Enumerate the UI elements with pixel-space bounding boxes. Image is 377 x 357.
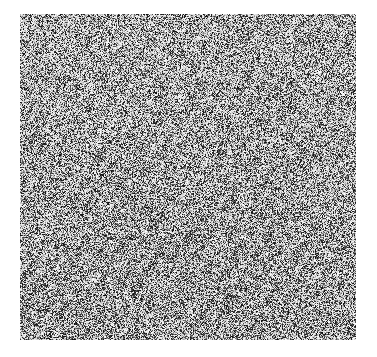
noise-texture xyxy=(20,14,356,340)
image-stage xyxy=(0,0,377,357)
